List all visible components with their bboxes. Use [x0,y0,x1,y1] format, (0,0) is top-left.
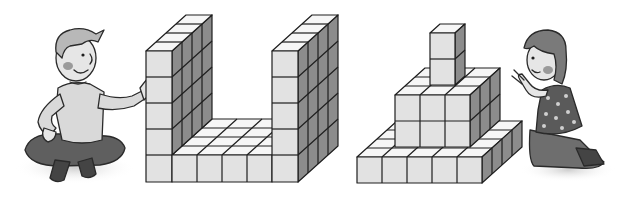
boy-figure [15,29,152,184]
pyramid-block-structure [357,24,522,183]
u-block-structure [146,15,338,182]
illustration [0,0,633,198]
girl-figure [512,30,616,182]
